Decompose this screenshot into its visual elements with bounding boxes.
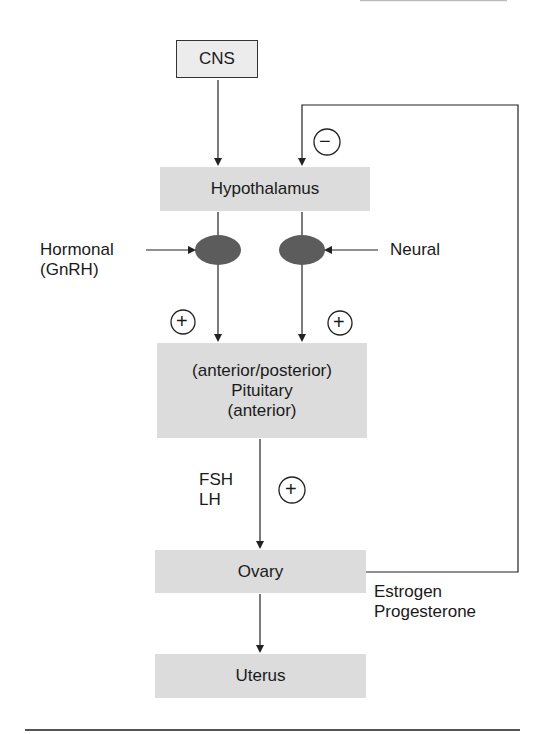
uterus-box: Uterus (155, 654, 366, 698)
positive-sign-fsh-lh: + (285, 479, 297, 499)
neural-oval (279, 235, 325, 265)
cns-label: CNS (199, 49, 235, 69)
hypothalamus-label: Hypothalamus (211, 179, 320, 199)
neural-label: Neural (390, 240, 440, 260)
estrogen-label: Estrogen (374, 582, 476, 602)
lh-label: LH (199, 490, 233, 510)
negative-sign: − (319, 131, 331, 151)
positive-sign-right: + (333, 312, 345, 332)
fsh-label: FSH (199, 470, 233, 490)
cns-box: CNS (176, 40, 258, 78)
hormonal-label-line2: (GnRH) (40, 260, 114, 280)
hormonal-oval (195, 235, 241, 265)
ovarian-hormones-label: Estrogen Progesterone (374, 582, 476, 622)
ovary-label: Ovary (238, 562, 283, 582)
pituitary-label-line2: Pituitary (231, 381, 292, 401)
pituitary-box: (anterior/posterior) Pituitary (anterior… (157, 343, 367, 438)
hypothalamus-box: Hypothalamus (160, 167, 370, 211)
hormonal-label: Hormonal (GnRH) (40, 240, 114, 280)
uterus-label: Uterus (235, 666, 285, 686)
ovary-box: Ovary (155, 550, 366, 593)
pituitary-label-line3: (anterior) (228, 401, 297, 421)
gonadotropins-label: FSH LH (199, 470, 233, 510)
progesterone-label: Progesterone (374, 602, 476, 622)
hormonal-label-line1: Hormonal (40, 240, 114, 260)
positive-sign-left: + (176, 311, 188, 331)
pituitary-label-line1: (anterior/posterior) (192, 361, 332, 381)
